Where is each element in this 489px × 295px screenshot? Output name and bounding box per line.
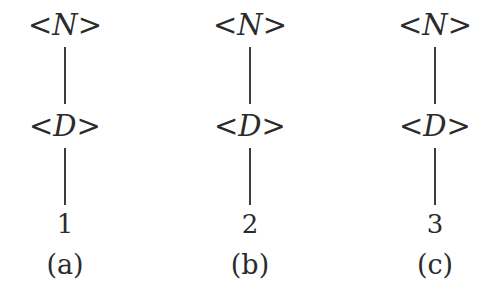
root-node-label: <N> [28,8,102,42]
root-node-label: <N> [213,8,287,42]
child-node-label: <D> [214,109,286,143]
edge-child-to-leaf [434,148,436,205]
leaf-node-label: 3 [427,210,444,238]
child-node-label: <D> [29,109,101,143]
tree-diagram-c: <N> <D> 3 (c) [380,8,489,280]
edge-root-to-child [249,47,251,104]
edge-child-to-leaf [249,148,251,205]
tree-diagram-b: <N> <D> 2 (b) [195,8,305,280]
edge-root-to-child [434,47,436,104]
leaf-node-label: 1 [57,210,74,238]
subfigure-caption-c: (c) [417,250,453,280]
subfigure-caption-a: (a) [46,250,83,280]
tree-derivation-figure: <N> <D> 1 (a) <N> <D> 2 (b) <N> <D> 3 (c… [0,0,489,295]
edge-child-to-leaf [64,148,66,205]
subfigure-caption-b: (b) [231,250,269,280]
leaf-node-label: 2 [242,210,259,238]
root-node-label: <N> [398,8,472,42]
tree-diagram-a: <N> <D> 1 (a) [10,8,120,280]
edge-root-to-child [64,47,66,104]
child-node-label: <D> [399,109,471,143]
